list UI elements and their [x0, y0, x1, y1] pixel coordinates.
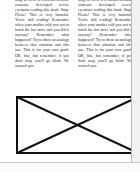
body-paragraph: ning we need is a lawsuit because someon… — [15, 0, 69, 69]
body-paragraph: ning we need is a lawsuit because someon… — [78, 0, 132, 69]
text-column-left: ning we need is a lawsuit because someon… — [15, 0, 69, 86]
page-bottom-margin — [0, 163, 140, 172]
placeholder-box-icon — [16, 96, 139, 154]
missing-image-placeholder — [16, 96, 139, 154]
text-column-right: ning we need is a lawsuit because someon… — [78, 0, 132, 86]
page-gutter — [132, 0, 140, 163]
document-page: ning we need is a lawsuit because someon… — [0, 0, 140, 172]
body-text-columns: ning we need is a lawsuit because someon… — [15, 0, 132, 86]
